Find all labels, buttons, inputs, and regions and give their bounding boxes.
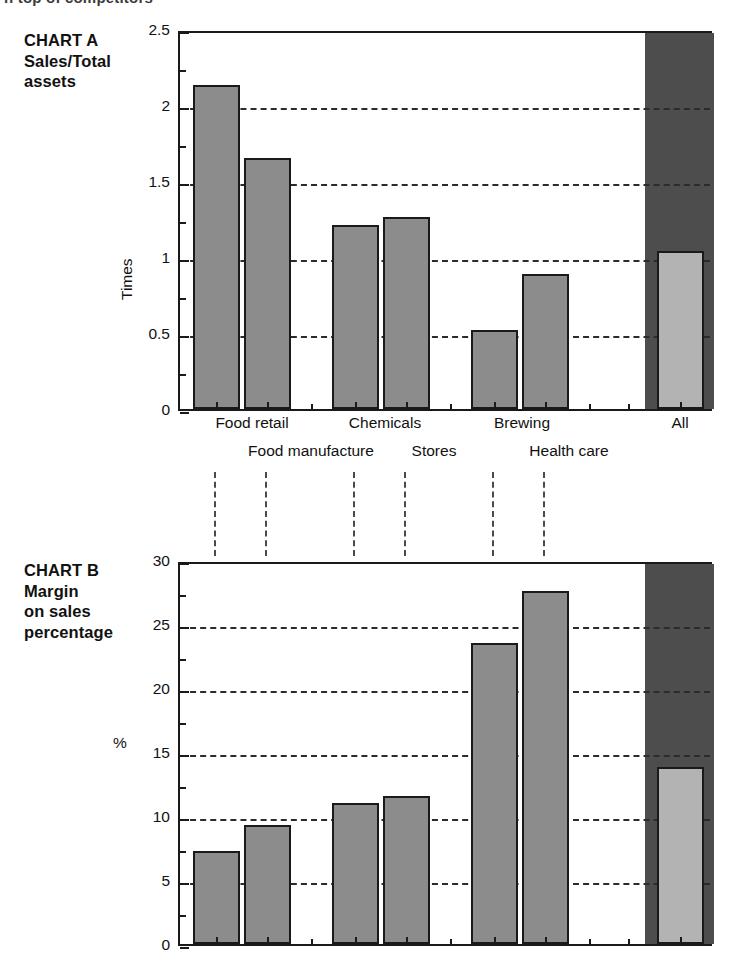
chart-b-y-tick-major: [180, 755, 189, 757]
chart-b-gridline: [180, 691, 710, 693]
chart-b-x-tick: [216, 937, 218, 944]
chart-b-y-tick-label: 10: [153, 809, 170, 825]
chart-b-y-tick-label: 30: [153, 553, 170, 569]
chart-b-block: CHART B Margin on sales percentage % 051…: [0, 0, 739, 962]
chart-b-title-text: CHART B Margin on sales percentage: [24, 560, 113, 642]
chart-b-y-tick-major: [180, 883, 189, 885]
bar-all: [657, 767, 704, 944]
chart-page: n top of competitors CHART A Sales/Total…: [0, 0, 739, 962]
chart-b-y-tick-minor: [180, 659, 186, 661]
chart-b-y-tick-minor: [180, 787, 186, 789]
chart-b-x-tick-minor: [311, 939, 313, 944]
bar-brewing: [471, 643, 518, 944]
chart-b-y-tick-minor: [180, 723, 186, 725]
bar-food-manufacture: [244, 825, 291, 944]
chart-b-x-tick-minor: [589, 939, 591, 944]
chart-b-x-tick: [494, 937, 496, 944]
chart-b-y-tick-label: 25: [153, 617, 170, 633]
chart-b-plot-area: [178, 562, 712, 946]
chart-b-y-tick-minor: [180, 595, 186, 597]
chart-b-x-tick-minor: [450, 939, 452, 944]
chart-b-x-tick: [267, 937, 269, 944]
chart-b-y-tick-minor: [180, 851, 186, 853]
chart-b-x-tick: [406, 937, 408, 944]
chart-b-y-tick-major: [180, 691, 189, 693]
chart-b-y-tick-major: [180, 819, 189, 821]
bar-health-care: [522, 591, 569, 944]
chart-b-y-tick-label: 5: [161, 873, 170, 889]
chart-b-gridline: [180, 755, 710, 757]
bar-food-retail: [193, 851, 240, 944]
bar-chemicals: [332, 803, 379, 944]
chart-b-y-tick-label: 0: [161, 937, 170, 953]
chart-b-gridline: [180, 819, 710, 821]
chart-b-y-axis-unit: %: [113, 734, 127, 752]
chart-b-y-tick-major: [180, 563, 189, 565]
chart-b-x-tick-minor: [628, 939, 630, 944]
chart-b-gridline: [180, 627, 710, 629]
chart-b-y-tick-minor: [180, 915, 186, 917]
chart-b-y-tick-label: 20: [153, 681, 170, 697]
chart-b-x-tick: [355, 937, 357, 944]
chart-b-x-tick: [680, 937, 682, 944]
chart-b-y-tick-major: [180, 947, 189, 949]
chart-b-y-tick-label: 15: [153, 745, 170, 761]
chart-b-y-tick-major: [180, 627, 189, 629]
chart-b-x-tick: [545, 937, 547, 944]
bar-stores: [383, 796, 430, 944]
